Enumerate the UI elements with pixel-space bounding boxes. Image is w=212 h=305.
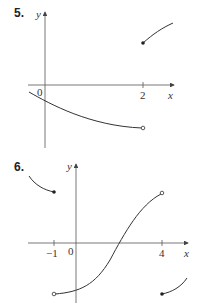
y-axis-label: y (35, 8, 41, 20)
tick-label-2: 2 (140, 89, 146, 101)
right-piece-curve (143, 23, 173, 43)
closed-dot (141, 41, 145, 45)
origin-label: 0 (37, 86, 43, 98)
closed-dot-right (160, 292, 164, 296)
right-piece-curve (162, 278, 187, 294)
x-axis-label: x (183, 247, 189, 259)
open-circle (141, 126, 145, 130)
graph-5: y x 0 2 (28, 8, 174, 148)
y-axis-label: y (66, 160, 72, 172)
x-axis-label: x (167, 89, 173, 101)
open-circle-right (160, 191, 164, 195)
tick-label-4: 4 (159, 247, 165, 259)
left-piece-curve (29, 176, 54, 192)
closed-dot-left (52, 190, 56, 194)
origin-label: 0 (68, 245, 74, 257)
graph-6: y x 0 −1 4 (28, 160, 189, 303)
left-piece-curve (29, 92, 142, 128)
open-circle-left (52, 292, 56, 296)
graphs: y x 0 2 y x 0 −1 4 (0, 0, 212, 305)
middle-piece-curve (55, 194, 161, 294)
tick-label-minus-1: −1 (46, 247, 58, 259)
